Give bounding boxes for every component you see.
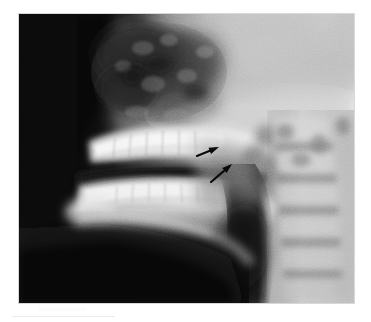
radiograph-image: [19, 14, 354, 303]
scan-artifact-smudge: [38, 308, 86, 311]
scan-artifact-line: [12, 316, 115, 317]
film-haze: [19, 14, 354, 303]
xray-canvas: [19, 14, 354, 303]
page-root: [0, 0, 371, 322]
